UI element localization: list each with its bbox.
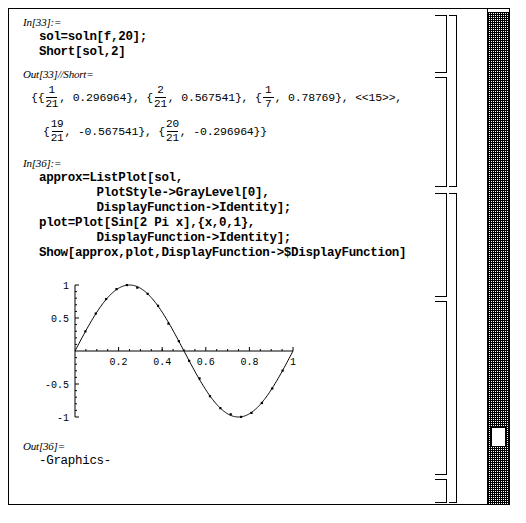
value-3: 0.78769 <box>288 91 335 104</box>
sep: , <box>180 125 193 138</box>
cell-bracket-column <box>429 9 469 504</box>
data-point <box>126 284 128 286</box>
suffix-2: }, <box>235 91 248 104</box>
code-line[interactable]: sol=soln[f,20]; <box>39 30 471 45</box>
graphics-placeholder: -Graphics- <box>39 454 471 469</box>
short-output-line-1: {{ 1 21 , 0.296964 }, { 2 21 , 0.567541 … <box>31 85 471 110</box>
y-tick-label: 0.5 <box>51 314 69 325</box>
suffix-1: }, <box>126 91 139 104</box>
sep <box>348 91 355 104</box>
elision-marker: <<15>>, <box>355 91 402 104</box>
data-point <box>178 340 180 342</box>
sep: { <box>43 125 50 138</box>
data-point <box>240 416 242 418</box>
data-point <box>198 377 200 379</box>
cell-bracket-graphics[interactable] <box>435 301 447 475</box>
x-tick-label: 0.4 <box>153 357 171 368</box>
data-point <box>271 387 273 389</box>
cell-label-in-36: In[36]:= <box>23 156 471 171</box>
x-tick-label: 1 <box>290 357 296 368</box>
data-point <box>188 360 190 362</box>
suffix-20: }} <box>254 125 267 138</box>
suffix-3: }, <box>335 91 348 104</box>
cell-label-out-33: Out[33]//Short= <box>23 67 471 82</box>
fraction-20: 20 21 <box>166 119 179 144</box>
sep: , <box>65 125 78 138</box>
cell-out-36: Out[36]= -Graphics- <box>23 439 471 469</box>
sep: , <box>275 91 288 104</box>
y-tick-label: 1 <box>63 281 69 292</box>
cell-bracket-in-33[interactable] <box>435 15 447 73</box>
sine-plot[interactable]: 0.20.40.60.8110.5-0.5-1 <box>37 271 299 431</box>
cell-bracket-out-33[interactable] <box>435 77 447 187</box>
code-line[interactable]: DisplayFunction->Identity]; <box>39 201 471 216</box>
code-line[interactable]: plot=Plot[Sin[2 Pi x],{x,0,1}, <box>39 216 471 231</box>
y-tick-label: -0.5 <box>45 380 69 391</box>
data-point <box>219 407 221 409</box>
fraction-3: 1 7 <box>263 85 274 110</box>
fraction-1: 1 21 <box>45 85 58 110</box>
cell-bracket-in-36[interactable] <box>435 193 447 297</box>
value-2: 0.567541 <box>181 91 235 104</box>
cell-label-out-36: Out[36]= <box>23 439 471 454</box>
data-point <box>84 330 86 332</box>
data-point <box>136 287 138 289</box>
cell-graphics-output[interactable]: 0.20.40.60.8110.5-0.5-1 <box>37 271 471 431</box>
data-point <box>261 402 263 404</box>
code-line[interactable]: approx=ListPlot[sol, <box>39 171 471 186</box>
x-tick-label: 0.8 <box>240 357 258 368</box>
sep: { <box>140 91 153 104</box>
cell-label-in-33: In[33]:= <box>23 15 471 30</box>
code-line[interactable]: PlotStyle->GrayLevel[0], <box>39 186 471 201</box>
sep: , <box>168 91 181 104</box>
short-output-line-2: { 19 21 , -0.567541 }, { 20 21 , -0.2969… <box>43 119 471 144</box>
data-point <box>115 288 117 290</box>
cell-in-33[interactable]: In[33]:= sol=soln[f,20]; Short[sol,2] <box>23 15 471 60</box>
cell-bracket-group-33[interactable] <box>449 15 457 187</box>
fraction-19: 19 21 <box>51 119 64 144</box>
data-point <box>95 312 97 314</box>
code-line[interactable]: Show[approx,plot,DisplayFunction->$Displ… <box>39 246 471 261</box>
cell-in-36[interactable]: In[36]:= approx=ListPlot[sol, PlotStyle-… <box>23 156 471 261</box>
code-line[interactable]: Short[sol,2] <box>39 45 471 60</box>
open-brace: {{ <box>31 91 44 104</box>
x-tick-label: 0.2 <box>110 357 128 368</box>
x-tick-label: 0.6 <box>197 357 215 368</box>
sep: { <box>248 91 261 104</box>
y-tick-label: -1 <box>57 413 69 424</box>
sep: , <box>59 91 72 104</box>
code-line[interactable]: DisplayFunction->Identity]; <box>39 231 471 246</box>
suffix-19: }, <box>138 125 151 138</box>
notebook-content: In[33]:= sol=soln[f,20]; Short[sol,2] Ou… <box>9 9 471 504</box>
cell-bracket-out-36[interactable] <box>435 479 447 503</box>
cell-out-33: Out[33]//Short= {{ 1 21 , 0.296964 }, { … <box>23 67 471 144</box>
data-point <box>105 298 107 300</box>
cell-bracket-group-36[interactable] <box>449 193 457 503</box>
scrollbar-thumb[interactable] <box>491 427 506 447</box>
data-point <box>282 369 284 371</box>
data-point <box>147 293 149 295</box>
vertical-scrollbar[interactable] <box>487 9 509 504</box>
value-19: -0.567541 <box>78 125 138 138</box>
value-1: 0.296964 <box>73 91 127 104</box>
sep: { <box>152 125 165 138</box>
data-point <box>167 322 169 324</box>
fraction-2: 2 21 <box>154 85 167 110</box>
data-point <box>209 395 211 397</box>
value-20: -0.296964 <box>193 125 253 138</box>
data-point <box>230 413 232 415</box>
data-point <box>250 412 252 414</box>
data-point <box>157 305 159 307</box>
notebook-window: In[33]:= sol=soln[f,20]; Short[sol,2] Ou… <box>8 8 510 505</box>
